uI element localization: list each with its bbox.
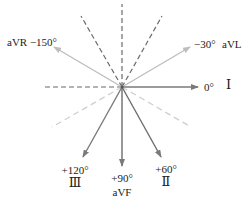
label-i-numeral: Ⅰ [226,79,231,91]
arrow-lead-ii [122,87,161,157]
label-ii-numeral: Ⅱ [151,176,181,188]
center-point [121,86,124,89]
label-iii-numeral: Ⅲ [60,177,90,189]
label-avf-name: aVF [107,186,137,198]
label-avf-angle: +90° [107,172,137,184]
arrow-avl [122,47,190,87]
axis-negative-ii-dashed [81,16,122,87]
axis-negative-iii-dashed [122,16,162,87]
label-avr: aVR −150° [7,36,57,48]
label-i-angle: 0° [204,81,214,93]
label-avl-name: aVL [222,38,242,50]
arrow-avr [54,47,122,87]
label-avl-angle: −30° [194,38,216,50]
